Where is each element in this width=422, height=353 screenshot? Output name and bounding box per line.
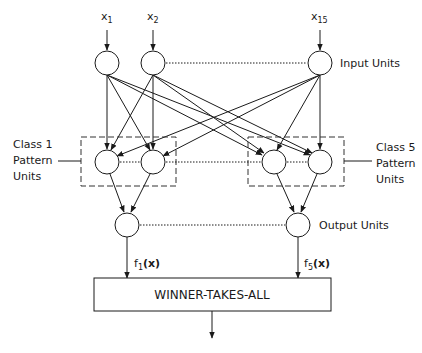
- input-units-label: Input Units: [340, 57, 400, 70]
- output-node-class1: [115, 213, 139, 237]
- input-node-x2: [141, 51, 165, 75]
- input-to-pattern-edges: [107, 75, 320, 156]
- pattern-node-class1-a: [95, 150, 119, 174]
- input-label-x2: x2: [147, 10, 159, 25]
- input-node-x15: [308, 51, 332, 75]
- output-node-class5: [286, 213, 310, 237]
- output-label-f1: f1(x): [134, 257, 160, 272]
- input-label-x1: x1: [101, 10, 113, 25]
- class1-label-line2: Pattern: [13, 154, 53, 167]
- class1-label-line1: Class 1: [13, 138, 52, 151]
- input-label-x15: x15: [311, 10, 328, 25]
- class5-label-line2: Pattern: [376, 157, 416, 170]
- input-node-x1: [95, 51, 119, 75]
- pattern-node-class5-a: [262, 150, 286, 174]
- pattern-node-class1-b: [141, 150, 165, 174]
- class1-label-line3: Units: [13, 170, 41, 183]
- pattern-to-output-edges: [110, 174, 317, 212]
- pnn-diagram: x1 x2 x15 Input Units Class 1 Patt: [0, 0, 422, 353]
- output-units-label: Output Units: [319, 219, 389, 232]
- class5-label-line3: Units: [376, 173, 404, 186]
- winner-takes-all-label: WINNER-TAKES-ALL: [154, 288, 270, 302]
- output-label-f5: f5(x): [304, 257, 330, 272]
- pattern-node-class5-b: [308, 150, 332, 174]
- class5-label-line1: Class 5: [376, 141, 415, 154]
